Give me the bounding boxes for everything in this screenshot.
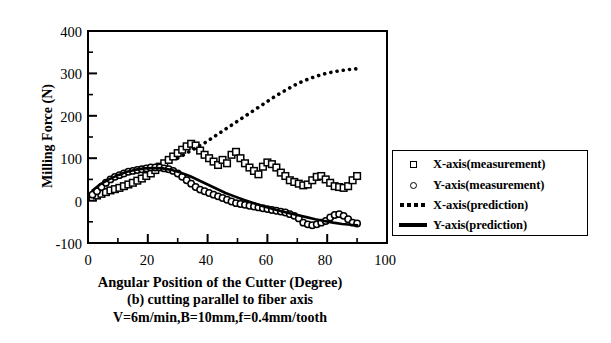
chart-legend: X-axis(measurement) Y-axis(measurement) … bbox=[392, 150, 588, 236]
series-dotted-line bbox=[178, 69, 357, 158]
legend-label: X-axis(prediction) bbox=[433, 198, 528, 213]
legend-item-x-measurement: X-axis(measurement) bbox=[393, 154, 589, 174]
legend-label: Y-axis(measurement) bbox=[433, 178, 544, 193]
figure-subcaption: (b) cutting parallel to fiber axis bbox=[0, 292, 440, 308]
figure-root: Milling Force (N) 400 300 200 100 0 -100… bbox=[0, 0, 611, 343]
figure-conditions: V=6m/min,B=10mm,f=0.4mm/tooth bbox=[0, 310, 440, 326]
legend-item-y-measurement: Y-axis(measurement) bbox=[393, 175, 589, 195]
chart-figure: Milling Force (N) 400 300 200 100 0 -100… bbox=[0, 0, 611, 343]
legend-label: Y-axis(prediction) bbox=[433, 218, 527, 233]
legend-item-x-prediction: X-axis(prediction) bbox=[393, 195, 589, 215]
open-square-icon bbox=[393, 154, 433, 174]
solid-line-icon bbox=[393, 215, 433, 235]
legend-label: X-axis(measurement) bbox=[433, 157, 545, 172]
open-circle-icon bbox=[393, 175, 433, 195]
x-axis-title: Angular Position of the Cutter (Degree) bbox=[0, 274, 440, 291]
legend-item-y-prediction: Y-axis(prediction) bbox=[393, 215, 589, 235]
dotted-line-icon bbox=[393, 195, 433, 215]
